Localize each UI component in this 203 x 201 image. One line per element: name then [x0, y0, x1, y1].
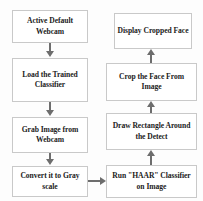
node-label: Load the Trained Classifier [15, 70, 85, 90]
node-label: Draw Rectangle Around the Detect [109, 121, 194, 141]
arrow-up-icon [147, 101, 155, 107]
node-run-haar-classifier-on-image: Run "HAAR" Classifier on Image [106, 165, 197, 198]
node-convert-it-to-gray-scale: Convert it to Gray scale [12, 166, 88, 197]
node-label: Run "HAAR" Classifier on Image [109, 171, 194, 191]
connector-line [150, 156, 152, 165]
node-label: Crop the Face From Image [109, 72, 194, 92]
node-label: Active Default Webcam [15, 16, 85, 36]
arrow-down-icon [46, 110, 54, 116]
node-label: Display Cropped Face [117, 26, 189, 36]
connector-line [150, 106, 152, 113]
arrow-down-icon [46, 51, 54, 57]
node-load-the-trained-classifier: Load the Trained Classifier [12, 58, 88, 102]
node-crop-the-face-from-image: Crop the Face From Image [106, 63, 197, 101]
arrow-down-icon [46, 159, 54, 165]
node-active-default-webcam: Active Default Webcam [12, 10, 88, 43]
node-draw-rectangle-around-the-detect: Draw Rectangle Around the Detect [106, 113, 197, 150]
node-display-cropped-face: Display Cropped Face [114, 13, 192, 49]
flowchart-diagram: Active Default Webcam Load the Trained C… [0, 0, 203, 201]
node-label: Convert it to Gray scale [15, 171, 85, 191]
connector-line [150, 55, 152, 63]
arrow-up-icon [147, 150, 155, 156]
arrow-up-icon [147, 49, 155, 55]
node-label: Grab Image from Webcam [15, 125, 85, 145]
node-grab-image-from-webcam: Grab Image from Webcam [12, 117, 88, 153]
